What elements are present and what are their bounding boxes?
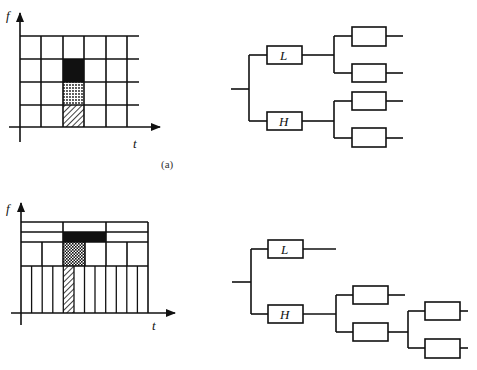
filter-L-label: L <box>279 48 287 63</box>
filter-H-label: H <box>278 114 289 129</box>
tiling-a: f t <box>6 8 160 151</box>
leaf-box <box>352 128 386 147</box>
freq-axis-label: f <box>6 8 12 23</box>
leaf-box <box>352 64 386 82</box>
caption-a: (a) <box>161 158 174 171</box>
node-box <box>353 323 388 341</box>
filter-L-label: L <box>280 242 288 257</box>
leaf-box <box>353 286 388 304</box>
figure-canvas: f t L H (a) <box>0 0 477 370</box>
cell-checkered <box>63 242 85 266</box>
cell-dotted <box>63 82 84 105</box>
freq-axis-label: f <box>6 201 12 216</box>
cell-hatched <box>63 105 84 127</box>
tiling-b: f t <box>6 201 175 333</box>
leaf-box <box>352 92 386 110</box>
leaf-box <box>425 339 460 358</box>
cell-solid <box>63 232 106 242</box>
time-axis-label: t <box>133 136 137 151</box>
cell-hatched <box>63 266 74 313</box>
tree-a: L H <box>231 27 403 147</box>
filter-H-label: H <box>279 307 290 322</box>
tree-b: L H <box>232 240 468 358</box>
cell-solid <box>63 59 84 82</box>
time-axis-label: t <box>152 318 156 333</box>
leaf-box <box>352 27 386 46</box>
leaf-box <box>425 302 460 320</box>
